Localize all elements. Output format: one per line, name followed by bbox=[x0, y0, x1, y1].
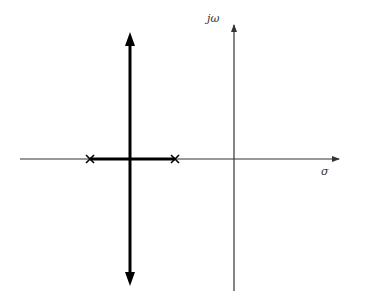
real-axis-label: σ bbox=[321, 165, 329, 178]
locus-down-arrow-icon bbox=[125, 272, 135, 286]
root-locus-diagram: jω σ bbox=[0, 0, 378, 306]
imaginary-axis-label: jω bbox=[204, 12, 219, 25]
locus-up-arrow-icon bbox=[125, 32, 135, 46]
